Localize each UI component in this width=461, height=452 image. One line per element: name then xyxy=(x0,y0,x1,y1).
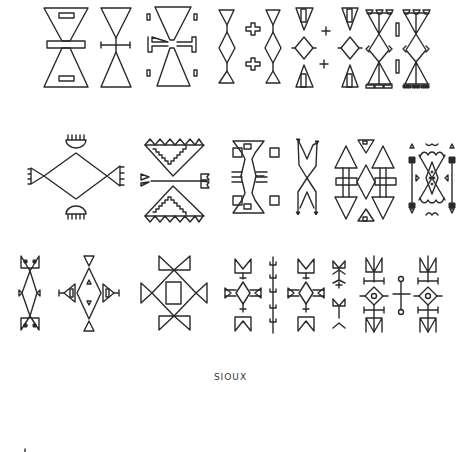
motif-cross-figures-with-forked-ends xyxy=(225,257,345,333)
motif-triangle-diamond-with-plus xyxy=(292,8,362,87)
motif-diamond-chain-with-crosses xyxy=(219,10,281,83)
motif-diamond-with-comb-triangles xyxy=(28,135,124,219)
motif-diamond-with-side-triangles xyxy=(59,256,119,331)
motif-arrow-pairs-with-diamond xyxy=(335,140,396,221)
motif-circle-diamond-crosses xyxy=(360,256,442,332)
motif-square-diamond-with-bowties xyxy=(141,256,207,330)
motif-hourglass-with-bars xyxy=(44,8,88,87)
caption-label: SIOUX xyxy=(0,372,461,382)
sioux-motifs-plate xyxy=(0,0,461,452)
motif-diamond-with-butterfly-triangles xyxy=(19,256,40,330)
motif-hourglass-with-crossbar xyxy=(101,8,131,87)
motif-ornate-figure xyxy=(409,144,455,215)
motif-hourglass-with-hooked-bar xyxy=(147,7,197,86)
motif-branched-hourglass-with-bars xyxy=(366,10,430,88)
motif-crossed-forked-x xyxy=(296,139,319,215)
motif-stepped-triangles-with-arrow xyxy=(141,139,209,222)
motif-hourglass-with-squares xyxy=(232,141,279,213)
